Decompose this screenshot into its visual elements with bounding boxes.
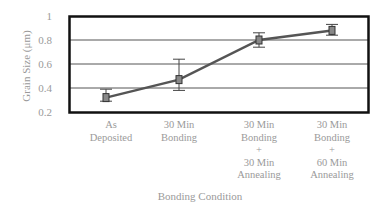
data-point-marker xyxy=(256,36,262,44)
data-series xyxy=(100,24,338,101)
x-axis-label: Bonding Condition xyxy=(158,190,243,202)
data-point-marker xyxy=(329,26,335,34)
y-tick-label: 0.6 xyxy=(38,58,52,70)
x-axis-categories: AsDeposited30 MinBonding30 MinBonding+30… xyxy=(90,119,355,180)
y-tick-label: 1 xyxy=(47,10,53,22)
gridlines xyxy=(69,40,368,88)
y-tick-label: 0.8 xyxy=(38,34,52,46)
y-axis-ticks: 0.20.40.60.81 xyxy=(38,10,52,118)
y-tick-label: 0.2 xyxy=(38,106,52,118)
y-tick-label: 0.4 xyxy=(38,82,52,94)
x-category-label: 30 MinBonding+30 MinAnnealing xyxy=(237,119,281,180)
grain-size-chart: 0.20.40.60.81 AsDeposited30 MinBonding30… xyxy=(0,0,390,202)
x-category-label: 30 MinBonding+60 MinAnnealing xyxy=(310,119,354,180)
y-axis-label: Grain Size (μm) xyxy=(20,30,33,102)
data-point-marker xyxy=(103,94,109,102)
x-category-label: 30 MinBonding xyxy=(161,119,198,143)
x-category-label: AsDeposited xyxy=(90,119,133,143)
data-point-marker xyxy=(176,76,182,84)
